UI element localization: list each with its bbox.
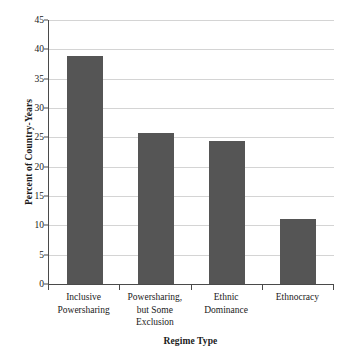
x-axis-tick-label-line: Ethnic (191, 291, 262, 304)
x-axis-tick-label-line: Powersharing (48, 304, 119, 317)
x-axis-tick-label: InclusivePowersharing (48, 291, 119, 316)
x-axis-tick-label-line: Powersharing, (119, 291, 190, 304)
x-axis-category-separators (48, 285, 334, 290)
x-axis-tick-label: EthnicDominance (191, 291, 262, 316)
bar[interactable] (280, 219, 316, 284)
bar[interactable] (67, 56, 103, 284)
bar-slot (263, 20, 334, 284)
x-axis-title: Regime Type (48, 336, 333, 346)
x-axis-separator (48, 285, 49, 290)
y-axis-tick-label: 35 (35, 74, 45, 84)
bar-slot (192, 20, 263, 284)
x-axis-separator (191, 285, 192, 290)
x-axis-tick-label: Ethnocracy (262, 291, 333, 304)
y-axis-tick-label: 25 (35, 132, 45, 142)
x-axis-tick-label: Powersharing,but SomeExclusion (119, 291, 190, 329)
y-axis-tick-label: 40 (35, 44, 45, 54)
y-axis-tick-label: 30 (35, 103, 45, 113)
x-axis-tick-label-line: Ethnocracy (262, 291, 333, 304)
bar[interactable] (138, 133, 174, 284)
x-axis-tick-label-line: but Some (119, 304, 190, 317)
x-axis-separator (262, 285, 263, 290)
bar-chart-figure: Percent of Country-Years 051015202530354… (0, 0, 347, 355)
x-axis-tick-label-line: Inclusive (48, 291, 119, 304)
x-axis-separator (119, 285, 120, 290)
y-axis-tick-label: 10 (35, 220, 45, 230)
y-axis-tick-labels: 051015202530354045 (30, 20, 44, 284)
bar[interactable] (209, 141, 245, 284)
x-axis-tick-label-line: Exclusion (119, 316, 190, 329)
y-axis-tick-label: 15 (35, 191, 45, 201)
y-axis-tick-label: 45 (35, 15, 45, 25)
bar-slot (49, 20, 120, 284)
x-axis-separator (333, 285, 334, 290)
bar-slot (120, 20, 191, 284)
plot-area (48, 20, 334, 285)
bar-series (49, 20, 334, 284)
x-axis-tick-label-line: Dominance (191, 304, 262, 317)
x-axis-tick-labels: InclusivePowersharingPowersharing,but So… (48, 291, 333, 335)
y-axis-tick-label: 20 (35, 162, 45, 172)
